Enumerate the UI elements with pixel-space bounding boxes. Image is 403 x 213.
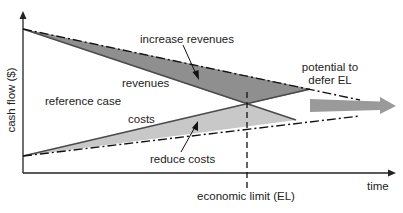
x-axis-label: time — [367, 180, 389, 192]
potential-to-defer-label-line2: defer EL — [308, 74, 352, 86]
reduce-costs-region — [23, 104, 296, 156]
x-axis-arrow-icon — [388, 170, 396, 177]
increase-revenues-label: increase revenues — [140, 33, 234, 45]
reference-case-label: reference case — [45, 95, 121, 107]
cashflow-diagram: cash flow ($) time increase revenues rev… — [0, 0, 403, 213]
potential-to-defer-label-line1: potential to — [302, 61, 358, 73]
y-axis-label: cash flow ($) — [5, 67, 17, 132]
reduce-costs-label: reduce costs — [150, 153, 215, 165]
y-axis-arrow-icon — [20, 11, 27, 19]
revenues-label: revenues — [122, 77, 170, 89]
costs-label: costs — [128, 113, 155, 125]
defer-el-arrow-icon — [310, 97, 396, 114]
economic-limit-label: economic limit (EL) — [197, 190, 295, 202]
